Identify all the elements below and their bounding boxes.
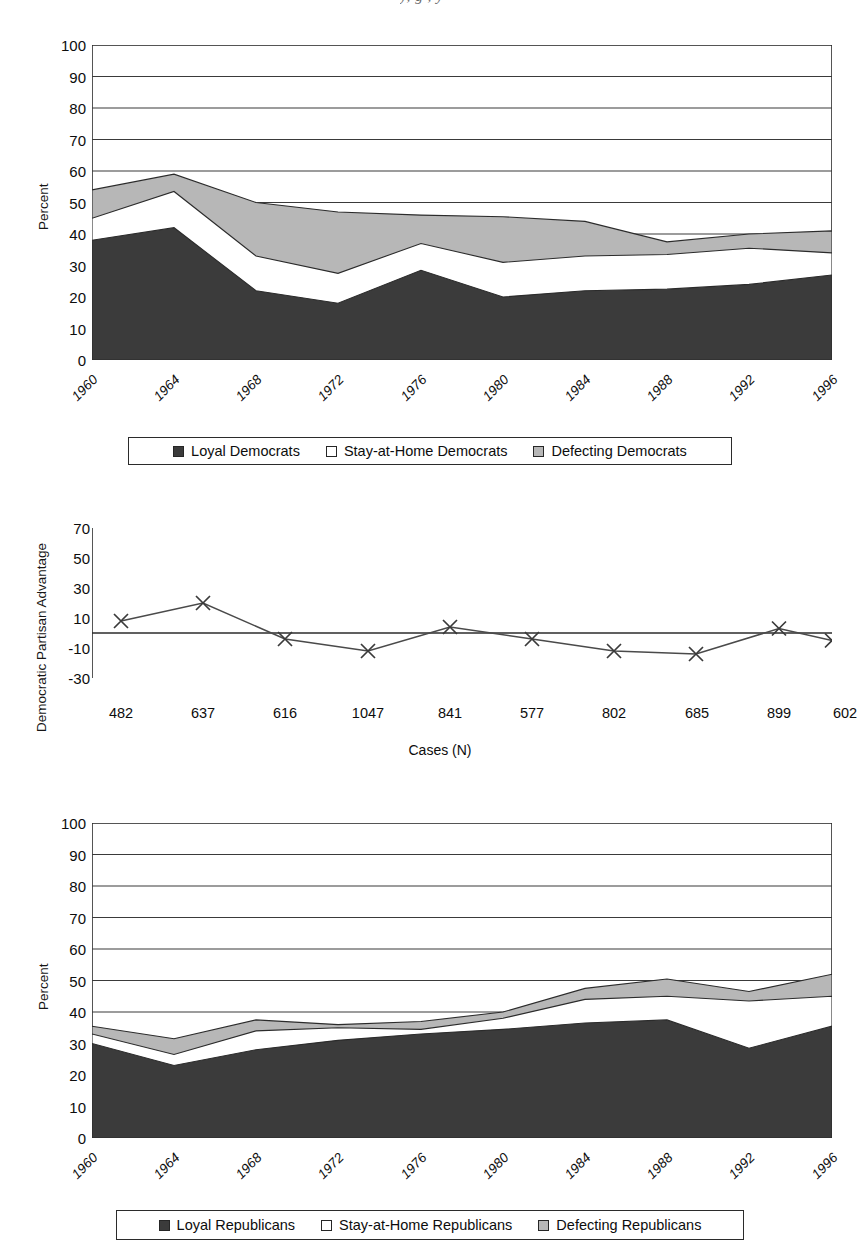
chart2-ytick: -10 <box>42 640 90 657</box>
chart2-ntick: 577 <box>520 705 544 721</box>
chart3-legend-label: Defecting Republicans <box>556 1217 701 1233</box>
chart3-legend-item-loyal[interactable]: Loyal Republicans <box>159 1217 296 1233</box>
chart3-xtick-1988: 1988 <box>623 1150 676 1203</box>
chart3-legend: Loyal Republicans Stay-at-Home Republica… <box>116 1210 744 1240</box>
legend-swatch-dark-icon <box>173 446 184 457</box>
chart1-legend-item-defecting[interactable]: Defecting Democrats <box>533 443 686 459</box>
chart1-xtick-1992: 1992 <box>705 372 758 425</box>
chart2-y-axis-label: Democratic Partisan Advantage <box>34 543 49 732</box>
chart1-xtick-1960: 1960 <box>48 372 101 425</box>
chart3-legend-item-defecting[interactable]: Defecting Republicans <box>538 1217 701 1233</box>
chart2-ytick: 50 <box>42 550 90 567</box>
chart1-ytick: 60 <box>42 163 86 180</box>
chart1-ytick: 100 <box>42 37 86 54</box>
chart2-svg <box>92 528 832 678</box>
chart3-ytick: 20 <box>42 1067 86 1084</box>
chart1-xtick-1976: 1976 <box>377 372 430 425</box>
chart3-legend-item-stay-at-home[interactable]: Stay-at-Home Republicans <box>321 1217 512 1233</box>
chart2-plot-area <box>92 528 832 678</box>
chart2-x-axis-title: Cases (N) <box>408 742 471 758</box>
chart1-ytick: 40 <box>42 226 86 243</box>
chart2-ntick: 899 <box>767 705 791 721</box>
chart3-xtick-1992: 1992 <box>705 1150 758 1203</box>
chart3-ytick: 90 <box>42 846 86 863</box>
chart2-data-line <box>121 603 832 654</box>
legend-swatch-gray-icon <box>538 1220 549 1231</box>
chart3-xtick-1996: 1996 <box>788 1150 841 1203</box>
republicans-area-chart: Percent 100 90 80 70 60 50 40 30 20 10 0 <box>0 785 860 1257</box>
chart1-legend-label: Loyal Democrats <box>191 443 300 459</box>
chart1-ytick: 20 <box>42 289 86 306</box>
legend-swatch-white-icon <box>326 446 337 457</box>
legend-swatch-white-icon <box>321 1220 332 1231</box>
chart2-markers <box>114 596 832 661</box>
chart1-legend: Loyal Democrats Stay-at-Home Democrats D… <box>128 437 732 465</box>
chart1-svg <box>92 45 832 360</box>
chart1-xtick-1996: 1996 <box>788 372 841 425</box>
chart1-xtick-1964: 1964 <box>130 372 183 425</box>
chart2-ntick: 637 <box>191 705 215 721</box>
legend-swatch-gray-icon <box>533 446 544 457</box>
chart1-ytick: 10 <box>42 320 86 337</box>
chart3-xtick-1968: 1968 <box>212 1150 265 1203</box>
chart3-xtick-1972: 1972 <box>294 1150 347 1203</box>
chart1-ytick: 90 <box>42 68 86 85</box>
chart2-ytick: 70 <box>42 520 90 537</box>
chart3-ytick: 60 <box>42 941 86 958</box>
chart2-ntick: 1047 <box>352 705 384 721</box>
chart3-legend-label: Loyal Republicans <box>177 1217 296 1233</box>
chart2-ntick: 841 <box>438 705 462 721</box>
chart2-ntick: 482 <box>109 705 133 721</box>
chart1-plot-area <box>92 45 832 360</box>
chart2-ytick: 10 <box>42 610 90 627</box>
chart3-xtick-1964: 1964 <box>130 1150 183 1203</box>
chart3-ytick: 10 <box>42 1098 86 1115</box>
chart3-plot-area <box>92 823 832 1138</box>
chart3-ytick: 0 <box>42 1130 86 1147</box>
chart1-xtick-1968: 1968 <box>212 372 265 425</box>
chart1-xtick-1988: 1988 <box>623 372 676 425</box>
chart3-ytick: 40 <box>42 1004 86 1021</box>
figure-page: y, g , y Percent 100 90 80 70 60 50 40 3… <box>0 0 860 1257</box>
chart1-legend-label: Stay-at-Home Democrats <box>344 443 508 459</box>
partisan-advantage-line-chart: Democratic Partisan Advantage 70 50 30 1… <box>0 500 860 770</box>
legend-swatch-dark-icon <box>159 1220 170 1231</box>
chart3-xtick-1980: 1980 <box>459 1150 512 1203</box>
chart3-xtick-1960: 1960 <box>48 1150 101 1203</box>
chart3-ytick: 100 <box>42 815 86 832</box>
chart1-xtick-1980: 1980 <box>459 372 512 425</box>
chart3-ytick: 80 <box>42 878 86 895</box>
chart1-ytick: 0 <box>42 352 86 369</box>
chart3-ytick: 30 <box>42 1035 86 1052</box>
chart2-ntick: 616 <box>273 705 297 721</box>
democrats-area-chart: Percent 100 90 80 70 60 50 40 30 20 10 0 <box>0 0 860 470</box>
chart2-ntick: 802 <box>602 705 626 721</box>
chart2-ntick: 685 <box>685 705 709 721</box>
chart1-ytick: 80 <box>42 100 86 117</box>
chart3-ytick: 70 <box>42 909 86 926</box>
chart1-xtick-1972: 1972 <box>294 372 347 425</box>
chart1-ytick: 70 <box>42 131 86 148</box>
chart2-ytick: -30 <box>42 670 90 687</box>
chart3-xtick-1984: 1984 <box>541 1150 594 1203</box>
chart1-legend-item-stay-at-home[interactable]: Stay-at-Home Democrats <box>326 443 508 459</box>
chart3-ytick: 50 <box>42 972 86 989</box>
chart3-svg <box>92 823 832 1138</box>
chart1-ytick: 50 <box>42 194 86 211</box>
chart3-xtick-1976: 1976 <box>377 1150 430 1203</box>
chart1-ytick: 30 <box>42 257 86 274</box>
chart2-ytick: 30 <box>42 580 90 597</box>
chart1-legend-item-loyal[interactable]: Loyal Democrats <box>173 443 300 459</box>
chart1-legend-label: Defecting Democrats <box>551 443 686 459</box>
chart2-ntick: 602 <box>833 705 857 721</box>
chart1-xtick-1984: 1984 <box>541 372 594 425</box>
chart3-legend-label: Stay-at-Home Republicans <box>339 1217 512 1233</box>
